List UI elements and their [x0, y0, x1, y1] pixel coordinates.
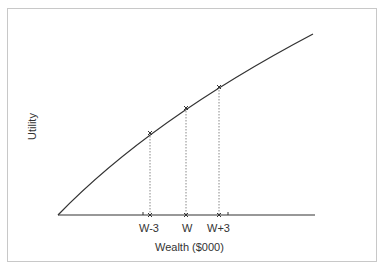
tick-label-w-minus-3: W-3	[139, 222, 159, 234]
utility-chart	[0, 0, 386, 269]
x-axis-label: Wealth ($000)	[155, 241, 224, 253]
tick-label-w: W	[182, 222, 192, 234]
tick-label-w-plus-3: W+3	[207, 222, 230, 234]
curve-markers	[148, 85, 221, 135]
y-axis-label: Utility	[26, 113, 38, 140]
